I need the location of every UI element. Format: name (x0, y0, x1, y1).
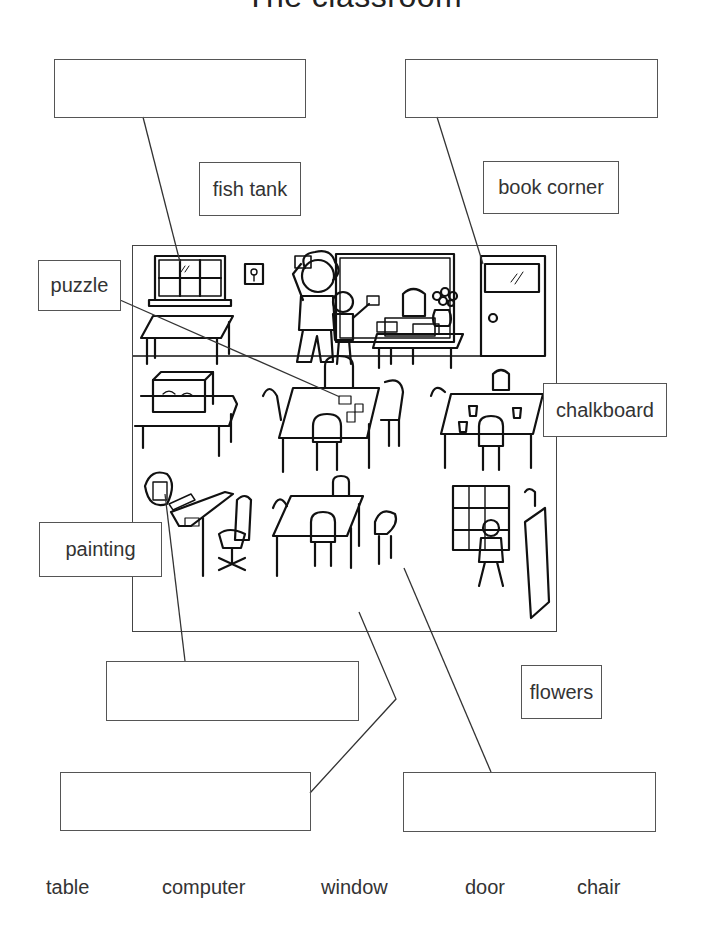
label-chalkboard: chalkboard (543, 383, 667, 437)
answer-box-1[interactable] (54, 59, 306, 118)
answer-box-5[interactable] (403, 772, 656, 832)
label-book-corner: book corner (483, 161, 619, 214)
teacher-drawing (293, 251, 339, 362)
answer-box-2[interactable] (405, 59, 658, 118)
answer-box-3[interactable] (106, 661, 359, 721)
window-drawing (149, 256, 231, 306)
label-puzzle: puzzle (38, 260, 121, 311)
door-drawing (481, 256, 545, 356)
table-drawing (141, 316, 233, 364)
answer-box-4[interactable] (60, 772, 311, 831)
word-bank-item: computer (162, 876, 245, 899)
word-bank-item: door (465, 876, 505, 899)
leader-line-door (437, 117, 483, 264)
painting-drawing (245, 264, 263, 284)
word-bank-item: chair (577, 876, 620, 899)
book-corner-drawing (453, 486, 549, 618)
office-chair-drawing (219, 496, 251, 570)
label-fish-tank: fish tank (199, 162, 301, 216)
table-drawing-4 (273, 476, 396, 576)
worksheet-title: The classroom (0, 0, 708, 15)
puzzle-table-drawing (279, 388, 379, 472)
fish-tank-drawing (153, 372, 213, 412)
leader-line-window (143, 117, 180, 262)
table-drawing-3 (431, 370, 543, 470)
word-bank-item: window (321, 876, 388, 899)
label-flowers: flowers (521, 665, 602, 719)
label-painting: painting (39, 522, 162, 577)
classroom-illustration (132, 245, 557, 632)
word-bank-item: table (46, 876, 89, 899)
classroom-drawing (133, 246, 558, 633)
word-bank: table computer window door chair (0, 876, 708, 900)
table-drawing-2 (135, 396, 237, 456)
